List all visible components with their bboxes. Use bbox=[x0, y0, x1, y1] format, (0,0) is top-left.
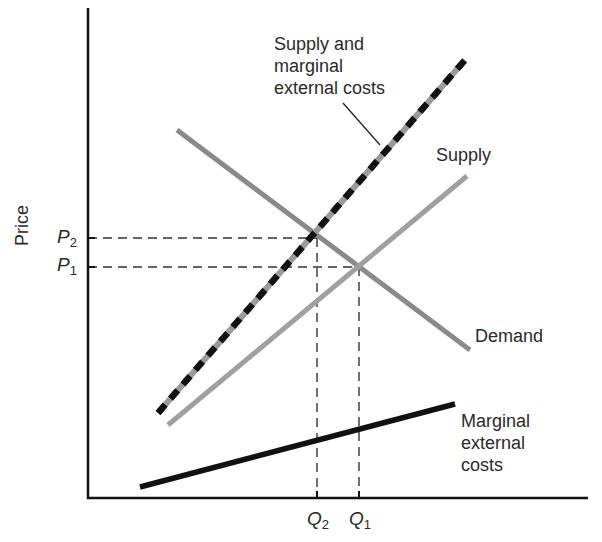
p2-symbol: P bbox=[57, 226, 70, 247]
p1-symbol: P bbox=[57, 254, 70, 275]
mec-label-line-1: Marginal bbox=[461, 410, 530, 432]
q1-label: Q1 bbox=[349, 508, 371, 532]
supply-mec-label-line-2: marginal bbox=[274, 55, 385, 77]
mec-label-line-2: external bbox=[461, 432, 530, 454]
supply-label: Supply bbox=[436, 144, 491, 166]
q1-subscript: 1 bbox=[364, 517, 371, 532]
mec-curve bbox=[140, 404, 455, 487]
y-axis-label-text: Price bbox=[12, 205, 32, 246]
demand-label: Demand bbox=[475, 325, 543, 347]
supply-label-text: Supply bbox=[436, 144, 491, 166]
p1-subscript: 1 bbox=[70, 263, 77, 278]
supply-mec-label-line-3: external costs bbox=[274, 77, 385, 99]
mec-label: Marginal external costs bbox=[461, 410, 530, 476]
supply-mec-label: Supply and marginal external costs bbox=[274, 33, 385, 99]
externality-diagram: Price P2 P1 Q2 Q1 Supply and marginal ex… bbox=[0, 0, 602, 542]
supply-mec-label-line-1: Supply and bbox=[274, 33, 385, 55]
mec-label-line-3: costs bbox=[461, 454, 530, 476]
demand-curve bbox=[177, 130, 470, 350]
p2-label: P2 bbox=[57, 226, 77, 250]
y-axis-label: Price bbox=[12, 186, 33, 246]
supply-mec-leader bbox=[343, 103, 380, 145]
supply-curve bbox=[168, 176, 467, 425]
demand-label-text: Demand bbox=[475, 325, 543, 347]
q2-subscript: 2 bbox=[322, 517, 329, 532]
p2-subscript: 2 bbox=[70, 235, 77, 250]
q2-label: Q2 bbox=[307, 508, 329, 532]
q2-symbol: Q bbox=[307, 508, 322, 529]
q1-symbol: Q bbox=[349, 508, 364, 529]
p1-label: P1 bbox=[57, 254, 77, 278]
